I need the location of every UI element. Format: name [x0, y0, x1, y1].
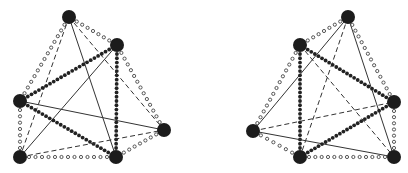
node-B [110, 38, 124, 52]
edge-Q-S-filled-dots [306, 48, 388, 99]
edge-T-U-open-dots [307, 155, 386, 158]
left-graph [13, 10, 171, 164]
edge-A-C-open-dots [23, 23, 66, 95]
edge-B-D-open-dots [120, 51, 161, 123]
edge-Q-U-dashed [300, 45, 394, 157]
node-C [13, 94, 27, 108]
node-R [246, 124, 260, 138]
edges [253, 17, 396, 159]
edge-E-F-open-dots [27, 155, 108, 158]
edge-B-C-filled-dots [26, 48, 111, 99]
edge-Q-T-filled-dots [298, 52, 302, 150]
edge-A-F-solid [69, 17, 116, 157]
edge-C-E-open-dots [18, 108, 21, 149]
edge-P-S-open-dots [351, 23, 392, 95]
edge-R-T-open-dots [259, 134, 293, 154]
edge-E-D-dashed [20, 130, 164, 157]
edges [18, 17, 164, 159]
edge-Q-R-open-dots [256, 51, 298, 124]
edge-B-F-filled-dots [114, 52, 119, 150]
edge-P-T-dashed [300, 17, 348, 157]
graph-diagram-canvas [0, 0, 408, 173]
node-E [13, 150, 27, 164]
node-D [157, 123, 171, 137]
edge-B-E-solid [20, 45, 117, 157]
node-U [387, 150, 401, 164]
node-S [387, 95, 401, 109]
right-graph [246, 10, 401, 164]
edge-T-S-filled-dots [306, 105, 388, 155]
node-A [62, 10, 76, 24]
edge-C-F-filled-dots [26, 104, 110, 155]
edge-F-D-open-dots [122, 133, 158, 154]
edge-S-U-open-dots [392, 109, 395, 149]
node-Q [293, 38, 307, 52]
node-F [109, 150, 123, 164]
node-T [293, 150, 307, 164]
node-P [341, 10, 355, 24]
